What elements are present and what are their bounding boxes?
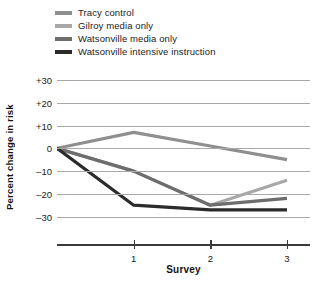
x-axis-tick-mark — [287, 240, 288, 249]
legend-item: Watsonville media only — [55, 32, 320, 45]
series-line — [57, 132, 287, 159]
x-axis-tick-mark — [134, 240, 135, 249]
gridline — [57, 126, 310, 127]
y-axis-tick-label: –20 — [36, 188, 52, 199]
gridline — [57, 148, 310, 149]
series-line — [57, 148, 287, 205]
legend-swatch-watsonville-intensive-instruction — [55, 50, 72, 54]
legend-label-tracy-control: Tracy control — [78, 6, 134, 19]
gridline — [57, 194, 310, 195]
x-axis-line: 123 — [57, 244, 310, 246]
chart-figure: Tracy control Gilroy media only Watsonvi… — [0, 0, 327, 286]
legend-swatch-watsonville-media-only — [55, 37, 72, 41]
series-line — [57, 148, 287, 205]
y-axis-tick-label: +10 — [36, 120, 52, 131]
legend-label-watsonville-intensive-instruction: Watsonville intensive instruction — [78, 45, 216, 58]
legend-swatch-gilroy-media-only — [55, 24, 72, 28]
x-axis-tick-label: 1 — [131, 253, 136, 264]
gridline — [57, 171, 310, 172]
legend-item: Gilroy media only — [55, 19, 320, 32]
y-axis-tick-label: –30 — [36, 211, 52, 222]
y-axis-tick-label: 0 — [47, 143, 52, 154]
gridline — [57, 103, 310, 104]
legend-item: Watsonville intensive instruction — [55, 45, 320, 58]
legend-swatch-tracy-control — [55, 11, 72, 15]
x-axis-tick-label: 3 — [284, 253, 289, 264]
legend-item: Tracy control — [55, 6, 320, 19]
y-axis-tick-label: +20 — [36, 97, 52, 108]
plot-area: +30+20+100–10–20–30 — [57, 80, 310, 228]
y-axis-title: Percent change in risk — [2, 92, 16, 222]
y-axis-tick-label: +30 — [36, 75, 52, 86]
gridline — [57, 80, 310, 81]
legend-label-watsonville-media-only: Watsonville media only — [78, 32, 177, 45]
x-axis-tick-label: 2 — [208, 253, 213, 264]
x-axis-title: Survey — [57, 264, 310, 275]
legend-label-gilroy-media-only: Gilroy media only — [78, 19, 153, 32]
gridline — [57, 217, 310, 218]
chart-legend: Tracy control Gilroy media only Watsonvi… — [55, 6, 320, 58]
y-axis-tick-label: –10 — [36, 166, 52, 177]
x-axis-tick-mark — [210, 240, 211, 249]
